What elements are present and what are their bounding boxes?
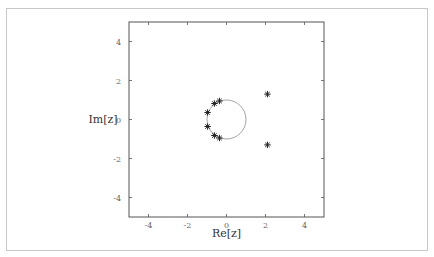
root-locus-plot: -4-2024420-2-4 Re[z] Im[z] bbox=[0, 0, 434, 257]
asterisk-marker bbox=[204, 123, 210, 129]
y-tick-label: -2 bbox=[113, 155, 121, 164]
y-tick-label: -4 bbox=[113, 194, 121, 203]
x-tick-label: 2 bbox=[263, 221, 268, 230]
asterisk-marker bbox=[264, 91, 270, 97]
x-tick-label: -4 bbox=[145, 221, 153, 230]
asterisk-marker bbox=[204, 109, 210, 115]
x-tick-label: -2 bbox=[184, 221, 192, 230]
y-axis-label: Im[z] bbox=[88, 113, 117, 126]
x-tick-label: 4 bbox=[302, 221, 307, 230]
unit-circle bbox=[207, 100, 246, 139]
plot-area: -4-2024420-2-4 bbox=[113, 22, 324, 230]
y-tick-label: 2 bbox=[116, 77, 121, 86]
asterisk-marker bbox=[264, 142, 270, 148]
y-tick-label: 4 bbox=[116, 38, 121, 47]
x-axis-label: Re[z] bbox=[212, 227, 241, 240]
axes-box bbox=[129, 22, 324, 217]
